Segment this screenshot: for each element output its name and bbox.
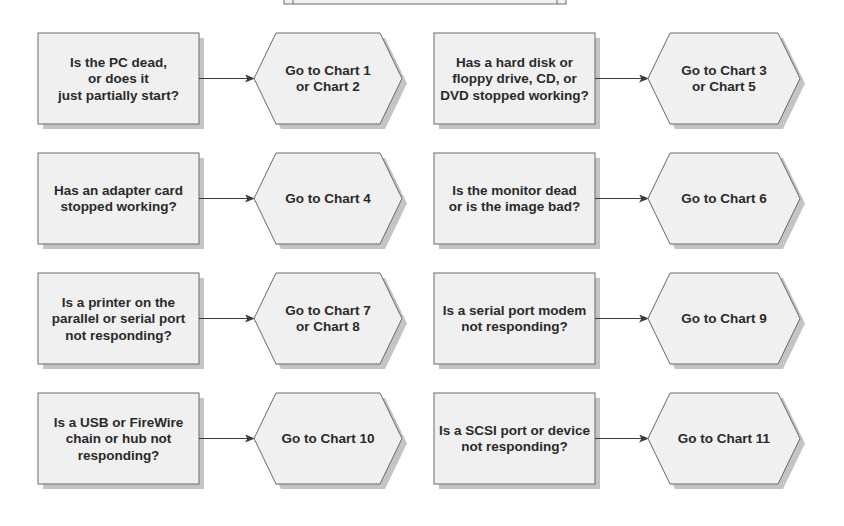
answer-text: Go to Chart 11 bbox=[678, 431, 771, 446]
question-text: parallel or serial port bbox=[52, 311, 186, 326]
flow-step-right: Is the monitor deador is the image bad?G… bbox=[434, 153, 805, 249]
answer-text: Go to Chart 3 bbox=[681, 63, 767, 78]
question-box: Is a SCSI port or devicenot responding? bbox=[434, 393, 600, 489]
flow-step-left: Is a printer on theparallel or serial po… bbox=[38, 273, 407, 369]
answer-hexagon: Go to Chart 9 bbox=[648, 273, 805, 369]
question-text: Is a USB or FireWire bbox=[54, 415, 184, 430]
answer-hexagon: Go to Chart 6 bbox=[648, 153, 805, 249]
flow-step-left: Is the PC dead,or does itjust partially … bbox=[38, 33, 407, 129]
answer-hexagon: Go to Chart 4 bbox=[254, 153, 407, 249]
question-text: Is a SCSI port or device bbox=[439, 423, 590, 438]
question-text: Has a hard disk or bbox=[456, 55, 574, 70]
question-box: Is the monitor deador is the image bad? bbox=[434, 153, 600, 249]
question-text: stopped working? bbox=[60, 199, 176, 214]
answer-text: Go to Chart 7 bbox=[285, 303, 371, 318]
question-text: Is a printer on the bbox=[62, 295, 176, 310]
question-text: Has an adapter card bbox=[54, 183, 183, 198]
answer-text: or Chart 8 bbox=[296, 319, 360, 334]
question-text: or is the image bad? bbox=[449, 199, 580, 214]
question-box: Has a hard disk orfloppy drive, CD, orDV… bbox=[434, 33, 600, 129]
question-text: responding? bbox=[78, 448, 160, 463]
question-box: Has an adapter cardstopped working? bbox=[38, 153, 204, 249]
flowchart-rows: Is the PC dead,or does itjust partially … bbox=[38, 33, 805, 489]
answer-text: or Chart 5 bbox=[692, 79, 756, 94]
question-box: Is a printer on theparallel or serial po… bbox=[38, 273, 204, 369]
question-text: not responding? bbox=[461, 319, 567, 334]
question-text: just partially start? bbox=[57, 88, 179, 103]
question-text: Is the PC dead, bbox=[70, 55, 167, 70]
answer-text: Go to Chart 6 bbox=[681, 191, 767, 206]
question-text: not responding? bbox=[461, 439, 567, 454]
flow-step-left: Has an adapter cardstopped working?Go to… bbox=[38, 153, 407, 249]
question-text: Is the monitor dead bbox=[452, 183, 577, 198]
question-text: floppy drive, CD, or bbox=[452, 71, 577, 86]
question-box: Is a serial port modemnot responding? bbox=[434, 273, 600, 369]
flow-step-left: Is a USB or FireWirechain or hub notresp… bbox=[38, 393, 407, 489]
answer-hexagon: Go to Chart 3or Chart 5 bbox=[648, 33, 805, 129]
answer-text: Go to Chart 1 bbox=[285, 63, 371, 78]
answer-text: or Chart 2 bbox=[296, 79, 360, 94]
answer-text: Go to Chart 9 bbox=[681, 311, 767, 326]
question-text: not responding? bbox=[65, 328, 171, 343]
answer-text: Go to Chart 10 bbox=[281, 431, 374, 446]
question-box: Is the PC dead,or does itjust partially … bbox=[38, 33, 204, 129]
answer-hexagon: Go to Chart 10 bbox=[254, 393, 407, 489]
answer-hexagon: Go to Chart 1or Chart 2 bbox=[254, 33, 407, 129]
question-text: DVD stopped working? bbox=[440, 88, 589, 103]
troubleshooting-flowchart: Is the PC dead,or does itjust partially … bbox=[0, 0, 844, 526]
top-process-box bbox=[284, 0, 566, 4]
answer-hexagon: Go to Chart 7or Chart 8 bbox=[254, 273, 407, 369]
question-box: Is a USB or FireWirechain or hub notresp… bbox=[38, 393, 204, 489]
answer-hexagon: Go to Chart 11 bbox=[648, 393, 805, 489]
flow-step-right: Is a SCSI port or devicenot responding?G… bbox=[434, 393, 805, 489]
answer-text: Go to Chart 4 bbox=[285, 191, 371, 206]
flow-step-right: Is a serial port modemnot responding?Go … bbox=[434, 273, 805, 369]
question-text: or does it bbox=[88, 71, 149, 86]
question-text: chain or hub not bbox=[66, 431, 172, 446]
flow-step-right: Has a hard disk orfloppy drive, CD, orDV… bbox=[434, 33, 805, 129]
question-text: Is a serial port modem bbox=[443, 303, 586, 318]
